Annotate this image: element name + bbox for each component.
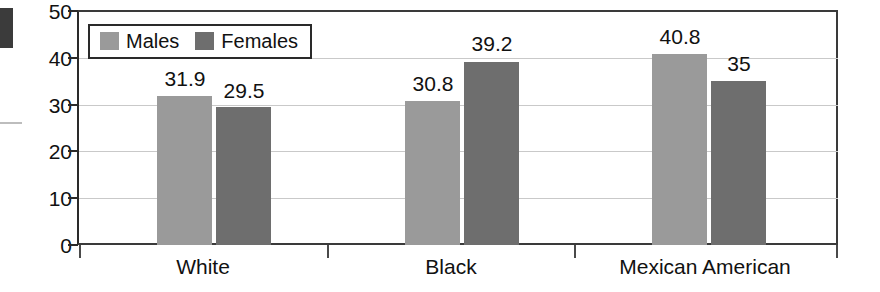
y-tick-mark-20 bbox=[68, 150, 78, 152]
legend-item-females: Females bbox=[195, 31, 298, 51]
category-label-mexican-american: Mexican American bbox=[619, 256, 791, 277]
y-tick-label-40: 40 bbox=[20, 47, 72, 68]
y-tick-label-10: 10 bbox=[20, 188, 72, 209]
legend-item-males: Males bbox=[100, 31, 179, 51]
category-separator-right bbox=[836, 245, 838, 258]
bar-black-males bbox=[405, 101, 460, 245]
value-label-black-females: 39.2 bbox=[472, 33, 513, 54]
bar-white-females bbox=[216, 107, 271, 245]
y-tick-label-0: 0 bbox=[20, 235, 72, 256]
category-separator-2 bbox=[574, 245, 576, 258]
scan-artifact-line bbox=[0, 122, 22, 124]
bar-chart-figure: 50 40 30 20 10 0 31.9 29.5 30.8 39.2 40.… bbox=[0, 0, 880, 292]
value-label-mexican-males: 40.8 bbox=[660, 26, 701, 47]
category-separator-1 bbox=[327, 245, 329, 258]
bar-white-males bbox=[157, 96, 212, 245]
y-tick-label-50: 50 bbox=[20, 1, 72, 22]
y-tick-label-20: 20 bbox=[20, 141, 72, 162]
legend-label-females: Females bbox=[221, 31, 298, 51]
y-axis-tick-labels: 50 40 30 20 10 0 bbox=[20, 0, 72, 292]
bar-mexican-females bbox=[711, 81, 766, 245]
value-label-white-males: 31.9 bbox=[165, 68, 206, 89]
legend-swatch-females-icon bbox=[195, 32, 214, 50]
bar-mexican-males bbox=[652, 54, 707, 245]
legend-swatch-males-icon bbox=[100, 32, 119, 50]
scan-artifact-block bbox=[0, 8, 13, 48]
chart-legend: Males Females bbox=[88, 24, 312, 59]
y-tick-mark-40 bbox=[68, 57, 78, 59]
legend-label-males: Males bbox=[126, 31, 179, 51]
y-tick-mark-30 bbox=[68, 104, 78, 106]
category-separator-left bbox=[79, 245, 81, 258]
value-label-black-males: 30.8 bbox=[413, 73, 454, 94]
value-label-mexican-females: 35 bbox=[727, 53, 750, 74]
y-tick-mark-50 bbox=[68, 10, 78, 12]
value-label-white-females: 29.5 bbox=[224, 80, 265, 101]
category-label-black: Black bbox=[425, 256, 476, 277]
y-tick-label-30: 30 bbox=[20, 94, 72, 115]
y-tick-mark-10 bbox=[68, 197, 78, 199]
category-label-white: White bbox=[176, 256, 230, 277]
bar-black-females bbox=[464, 62, 519, 246]
y-tick-mark-0 bbox=[68, 244, 78, 246]
